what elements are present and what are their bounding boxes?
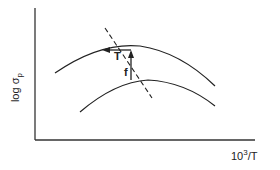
f-arrowhead-icon bbox=[128, 50, 134, 58]
t-arrow-label: T bbox=[114, 50, 121, 62]
t-arrowhead-icon bbox=[102, 47, 110, 53]
x-axis-label: 103/T bbox=[231, 148, 257, 162]
y-axis-label: log σp bbox=[6, 58, 26, 118]
upper-curve bbox=[55, 46, 215, 86]
diagram-canvas bbox=[0, 0, 280, 170]
lower-curve bbox=[80, 80, 215, 112]
f-arrow-label: f bbox=[124, 66, 128, 78]
dashed-locus-line bbox=[105, 28, 152, 98]
